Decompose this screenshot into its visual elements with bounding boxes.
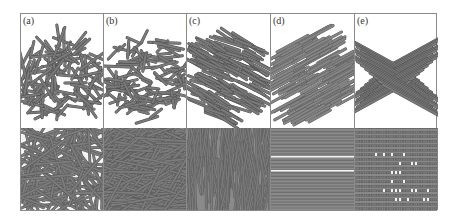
rods-top-image — [21, 128, 103, 210]
panel-d-3d-view: (d) — [271, 14, 354, 128]
panel-a-3d-view: (a) — [21, 14, 103, 128]
panel-label: (e) — [357, 15, 368, 26]
rods-top-image — [104, 128, 186, 210]
rods-3d-image — [271, 14, 354, 128]
panel-b: (b) — [104, 14, 187, 210]
rods-3d-image — [104, 14, 186, 128]
panel-b-3d-view: (b) — [104, 14, 186, 128]
panel-c-3d-view: (c) — [187, 14, 270, 128]
rods-top-image — [355, 128, 438, 210]
rods-3d-image — [355, 14, 438, 128]
panel-label: (a) — [23, 15, 34, 26]
panel-b-top-view — [104, 128, 186, 210]
panel-a: (a) — [21, 14, 104, 210]
figure-panel-grid: (a) (b) (c) (d) — [20, 13, 437, 211]
rods-3d-image — [187, 14, 270, 128]
panel-d-top-view — [271, 128, 354, 210]
panel-label: (d) — [273, 15, 285, 26]
rods-top-image — [271, 128, 354, 210]
panel-label: (b) — [106, 15, 118, 26]
panel-e: (e) — [355, 14, 438, 210]
panel-e-3d-view: (e) — [355, 14, 438, 128]
panel-c-top-view — [187, 128, 270, 210]
panel-label: (c) — [189, 15, 200, 26]
panel-c: (c) — [187, 14, 271, 210]
panel-e-top-view — [355, 128, 438, 210]
panel-a-top-view — [21, 128, 103, 210]
panel-d: (d) — [271, 14, 355, 210]
rods-3d-image — [21, 14, 103, 128]
rods-top-image — [187, 128, 270, 210]
